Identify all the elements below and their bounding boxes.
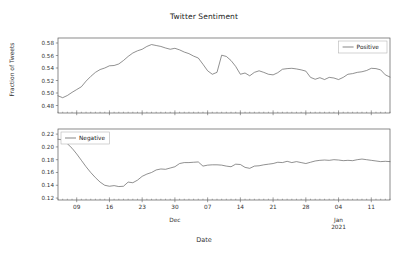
y-tick-label: 0.14 [42,182,55,188]
x-tick-label: 07 [204,204,212,210]
y-tick-label: 0.58 [42,40,55,46]
x-tick-label: 14 [237,204,245,210]
panel-positive: 0.480.500.520.540.560.58Positive [42,38,390,115]
x-period-label-dec: Dec [169,217,180,223]
y-tick-label: 0.50 [42,90,55,96]
x-tick-label: 23 [138,204,146,210]
y-tick-label: 0.12 [42,195,54,201]
x-tick-label: 28 [302,204,310,210]
x-tick-label: 30 [171,204,179,210]
legend-label-negative: Negative [79,135,105,142]
y-tick-label: 0.16 [42,169,55,175]
x-tick-label: 09 [73,204,81,210]
panel-negative: 0.120.140.160.180.200.22Negative [42,129,390,202]
x-period-label-jan: Jan [333,217,343,224]
x-tick-label: 16 [106,204,114,210]
y-tick-label: 0.54 [42,65,55,71]
chart-title: Twitter Sentiment [0,12,408,21]
x-tick-label: 21 [269,204,277,210]
x-axis-label: Date [0,236,408,244]
y-tick-label: 0.18 [42,157,55,163]
y-tick-label: 0.22 [42,131,54,137]
data-line-negative [58,139,390,186]
y-axis-label: Fraction of Tweets [8,15,15,125]
plot-area: 0.480.500.520.540.560.58Positive 0.120.1… [0,0,408,257]
x-tick-label: 04 [335,204,343,210]
legend-label-positive: Positive [357,44,380,50]
y-tick-label: 0.52 [42,78,54,84]
x-tick-label: 11 [368,204,376,210]
y-tick-label: 0.56 [42,53,55,59]
x-axis-tick-labels: 09162330071421280411DecJan2021 [73,204,375,230]
chart-figure: Twitter Sentiment Fraction of Tweets Dat… [0,0,408,257]
y-tick-label: 0.20 [42,144,55,150]
x-period-label-year: 2021 [331,224,346,230]
y-tick-label: 0.48 [42,103,55,109]
